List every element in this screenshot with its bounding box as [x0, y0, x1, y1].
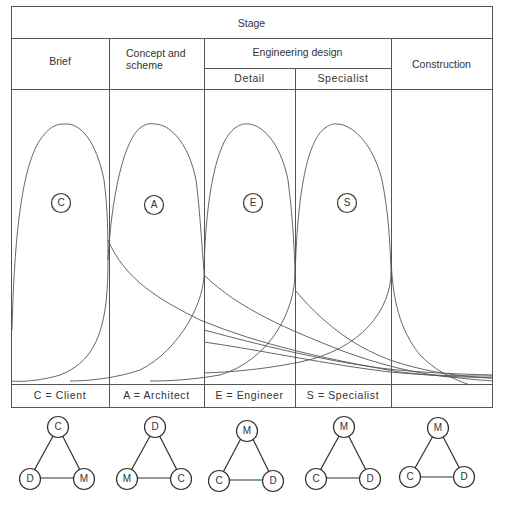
legend-architect: A = Architect [109, 389, 204, 401]
tri4-left: C [306, 473, 326, 485]
tri4-top: M [334, 421, 354, 433]
curve-specialist [204, 124, 391, 373]
tri2-right: C [171, 473, 191, 485]
tri2-left: M [117, 473, 137, 485]
engineer-marker-label: E [243, 197, 263, 209]
curve-specialist-tail [295, 290, 492, 378]
architect-marker-label: A [144, 199, 164, 211]
curve-low-tail [204, 342, 492, 376]
stage-title: Stage [11, 17, 492, 29]
tri3-right: D [263, 475, 283, 487]
tri5-top: M [428, 422, 448, 434]
curve-construction [391, 255, 470, 385]
legend-engineer: E = Engineer [204, 389, 295, 401]
tri1-right: M [74, 473, 94, 485]
tri2-top: D [145, 421, 165, 433]
column-engineering: Engineering design [204, 46, 391, 58]
tri5-right: D [454, 471, 474, 483]
client-marker-label: C [51, 197, 71, 209]
tri1-left: D [20, 473, 40, 485]
curve-engineer-tail [204, 275, 492, 381]
tri3-left: C [209, 475, 229, 487]
column-concept: Concept and scheme [109, 47, 204, 71]
legend-client: C = Client [11, 389, 109, 401]
specialist-marker-label: S [337, 197, 357, 209]
tri3-top: M [237, 425, 257, 437]
tri5-left: C [400, 471, 420, 483]
subcolumn-specialist: Specialist [295, 72, 391, 84]
tri1-top: C [48, 421, 68, 433]
subcolumn-detail: Detail [204, 72, 295, 84]
influence-curves [12, 124, 492, 385]
curve-architect [70, 124, 204, 381]
curve-client [12, 124, 108, 381]
tri4-right: D [360, 473, 380, 485]
column-brief: Brief [11, 55, 109, 67]
legend-specialist: S = Specialist [295, 389, 391, 401]
column-concept-line1: Concept and [126, 47, 204, 59]
curve-architect-tail [108, 240, 492, 378]
column-concept-line2: scheme [126, 59, 204, 71]
column-construction: Construction [391, 58, 492, 70]
curve-engineer [150, 124, 295, 381]
